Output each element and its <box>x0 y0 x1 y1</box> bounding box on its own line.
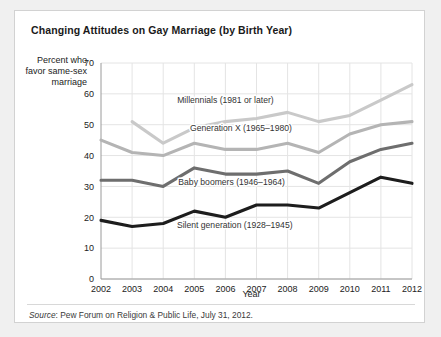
series-label: Generation X (1965–1980) <box>190 123 292 133</box>
y-tick-label: 40 <box>84 151 94 161</box>
series-label: Baby boomers (1946–1964) <box>178 177 285 187</box>
divider <box>27 304 415 305</box>
y-tick-label: 70 <box>84 58 94 68</box>
y-tick-label: 50 <box>84 120 94 130</box>
y-tick-label: 20 <box>84 213 94 223</box>
plot-area: 0102030405060702002200320042005200620072… <box>15 11 426 324</box>
source-note: Source: Pew Forum on Religion & Public L… <box>29 310 253 320</box>
series-label: Silent generation (1928–1945) <box>177 220 293 230</box>
y-tick-label: 0 <box>89 274 94 284</box>
y-tick-label: 30 <box>84 182 94 192</box>
y-tick-label: 60 <box>84 89 94 99</box>
series-label: Millennials (1981 or later) <box>177 95 274 105</box>
x-axis-label: Year <box>15 289 426 299</box>
y-tick-label: 10 <box>84 243 94 253</box>
source-label: Source <box>29 310 56 320</box>
source-text: : Pew Forum on Religion & Public Life, J… <box>56 310 253 320</box>
line-chart: 0102030405060702002200320042005200620072… <box>15 11 426 301</box>
chart-card: Changing Attitudes on Gay Marriage (by B… <box>14 10 425 323</box>
